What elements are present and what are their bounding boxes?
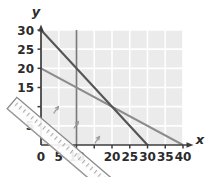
x-tick-label-20: 20 — [104, 150, 121, 164]
coordinate-plane: y x 30 25 20 15 5 0 5 10 20 25 30 35 40 — [0, 0, 208, 177]
x-axis-arrow — [187, 142, 194, 148]
y-tick-label-15: 15 — [17, 81, 34, 95]
graph-figure: y x 30 25 20 15 5 0 5 10 20 25 30 35 40 — [0, 0, 208, 177]
x-tick-label-40: 40 — [175, 150, 192, 164]
x-axis-label: x — [195, 132, 205, 147]
x-tick-label-25: 25 — [121, 150, 138, 164]
x-tick-label-0: 0 — [37, 150, 45, 164]
grid-panel — [41, 30, 183, 145]
x-tick-label-30: 30 — [139, 150, 156, 164]
y-tick-label-20: 20 — [17, 62, 34, 76]
y-axis-label: y — [32, 4, 41, 19]
y-tick-label-25: 25 — [17, 43, 34, 57]
x-tick-label-35: 35 — [157, 150, 174, 164]
y-tick-label-30: 30 — [17, 24, 34, 38]
